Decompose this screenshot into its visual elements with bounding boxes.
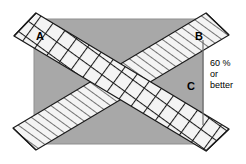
percentage-note: 60 % or better <box>210 58 233 90</box>
label-c: C <box>187 80 195 92</box>
percentage-note-line-2: or <box>210 69 218 79</box>
percentage-note-line-3: better <box>210 80 233 90</box>
diagram-svg: A B C 60 % or better <box>0 0 246 164</box>
label-b: B <box>195 30 203 42</box>
label-a: A <box>36 30 44 42</box>
diagram-canvas: A B C 60 % or better <box>0 0 246 164</box>
percentage-note-line-1: 60 % <box>210 58 231 68</box>
